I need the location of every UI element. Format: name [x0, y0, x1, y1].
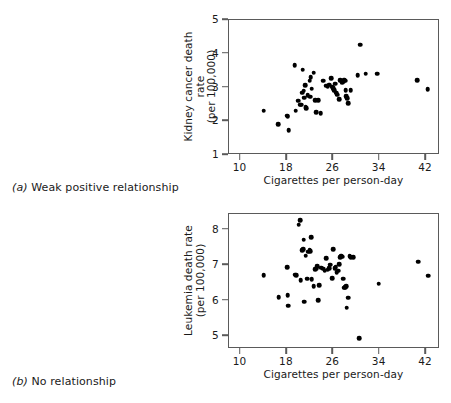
scatter-points-a: [229, 20, 438, 153]
scatter-point: [261, 273, 266, 278]
x-tick-label: 42: [418, 162, 432, 173]
x-tick-label: 26: [325, 356, 339, 367]
scatter-point: [336, 268, 341, 273]
caption-b: (b) No relationship: [12, 375, 116, 388]
scatter-point: [344, 284, 349, 289]
plot-area-a: [228, 19, 439, 154]
x-tick-label: 10: [233, 356, 247, 367]
scatter-point: [296, 222, 301, 227]
scatter-point: [333, 81, 338, 86]
scatter-point: [345, 96, 350, 101]
scatter-point: [416, 259, 421, 264]
scatter-point: [376, 281, 381, 286]
scatter-point: [348, 88, 353, 93]
x-tick-label: 42: [418, 356, 432, 367]
scatter-point: [310, 86, 315, 91]
scatter-point: [341, 276, 346, 281]
scatter-point: [316, 98, 321, 103]
scatter-point: [346, 101, 351, 106]
scatter-points-b: [229, 214, 438, 347]
x-tick-mark: [424, 348, 426, 354]
y-axis-title-a-line1: Kidney cancer death rate: [182, 31, 206, 141]
scatter-point: [292, 63, 297, 68]
scatter-point: [318, 111, 323, 116]
x-tick-mark: [332, 154, 334, 160]
scatter-point: [310, 277, 315, 282]
caption-b-text: No relationship: [28, 375, 116, 388]
scatter-point: [324, 256, 329, 261]
y-tick-label: 6: [212, 294, 219, 305]
y-tick-label: 8: [212, 224, 219, 235]
scatter-point: [355, 73, 360, 78]
y-axis-title-a: Kidney cancer death rate (per 100,000): [183, 19, 205, 154]
scatter-point: [300, 68, 305, 73]
x-tick-label: 18: [279, 356, 293, 367]
scatter-point: [311, 284, 316, 289]
scatter-point: [277, 295, 282, 300]
scatter-point: [337, 97, 342, 102]
scatter-point: [285, 115, 290, 120]
x-tick-label: 34: [372, 162, 386, 173]
caption-a-text: Weak positive relationship: [28, 181, 179, 194]
scatter-point: [301, 238, 306, 243]
y-tick-label: 1: [212, 149, 219, 160]
y-axis-title-b: Leukemia death rate (per 100,000): [183, 213, 205, 348]
scatter-point: [303, 83, 308, 88]
scatter-point: [299, 278, 304, 283]
y-tick-label: 2: [212, 115, 219, 126]
scatter-point: [286, 128, 291, 133]
caption-a: (a) Weak positive relationship: [12, 181, 179, 194]
x-tick-mark: [285, 154, 287, 160]
y-tick-label: 3: [212, 81, 219, 92]
scatter-point: [343, 88, 348, 93]
scatter-point: [301, 247, 306, 252]
panel-a-kidney-cancer: Kidney cancer death rate (per 100,000) 5…: [0, 0, 451, 200]
scatter-point: [309, 235, 314, 240]
y-tick-label: 7: [212, 259, 219, 270]
x-tick-mark: [378, 154, 380, 160]
plot-area-b: [228, 213, 439, 348]
scatter-point: [308, 75, 313, 80]
y-tick-label: 4: [212, 48, 219, 59]
scatter-point: [331, 247, 336, 252]
scatter-point: [298, 218, 303, 223]
scatter-point: [294, 273, 299, 278]
x-tick-label: 34: [372, 356, 386, 367]
caption-b-tag: (b): [12, 375, 28, 388]
scatter-point: [286, 304, 291, 309]
scatter-point: [426, 87, 431, 92]
scatter-point: [330, 276, 335, 281]
x-axis-title-a: Cigarettes per person-day: [228, 174, 439, 186]
scatter-point: [426, 274, 431, 279]
x-tick-label: 18: [279, 162, 293, 173]
scatter-point: [415, 78, 420, 83]
y-axis-b: 8 7 6 5: [205, 213, 228, 348]
y-axis-title-b-line1: Leukemia death rate: [182, 225, 194, 336]
scatter-point: [340, 254, 345, 259]
scatter-point: [337, 262, 342, 267]
scatter-point: [316, 298, 321, 303]
scatter-point: [329, 76, 334, 81]
x-tick-mark: [239, 154, 241, 160]
scatter-point: [293, 108, 298, 113]
y-tick-label: 5: [212, 14, 219, 25]
scatter-point: [308, 249, 313, 254]
x-tick-label: 10: [233, 162, 247, 173]
x-axis-title-b: Cigarettes per person-day: [228, 368, 439, 380]
scatter-point: [317, 283, 322, 288]
scatter-point: [358, 42, 363, 47]
scatter-point: [304, 106, 309, 111]
caption-a-tag: (a): [12, 181, 28, 194]
scatter-point: [344, 305, 349, 310]
y-tick-label: 5: [212, 330, 219, 341]
x-tick-mark: [285, 348, 287, 354]
x-tick-mark: [239, 348, 241, 354]
scatter-point: [343, 78, 348, 83]
scatter-point: [308, 94, 313, 99]
scatter-point: [351, 255, 356, 260]
scatter-point: [321, 79, 326, 84]
x-tick-mark: [378, 348, 380, 354]
scatter-point: [261, 109, 266, 114]
scatter-point: [357, 336, 362, 341]
scatter-point: [285, 293, 290, 298]
